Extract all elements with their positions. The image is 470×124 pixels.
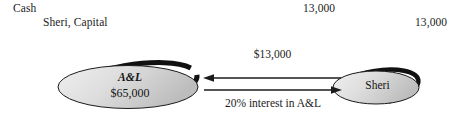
journal-credit-amount: 13,000: [415, 16, 447, 29]
exchange-diagram: A&L $65,000 Sheri: [0, 40, 470, 124]
journal-credit-account: Sheri, Capital: [43, 16, 108, 29]
exchange-arrows: [200, 73, 345, 95]
journal-debit-account: Cash: [13, 2, 36, 15]
arrow-label-interest: 20% interest in A&L: [193, 97, 353, 109]
arrow-left: [203, 74, 341, 82]
node-a-and-l-amount: $65,000: [56, 86, 213, 101]
node-sheri-name: Sheri: [331, 79, 431, 91]
arrow-right: [204, 86, 342, 94]
node-a-and-l-name: A&L: [56, 71, 213, 83]
figure-root: Cash Sheri, Capital 13,000 13,000 A&L: [0, 0, 470, 124]
node-a-and-l: A&L $65,000: [56, 64, 204, 110]
journal-debit-amount: 13,000: [303, 2, 335, 15]
arrow-label-cash: $13,000: [200, 48, 345, 60]
